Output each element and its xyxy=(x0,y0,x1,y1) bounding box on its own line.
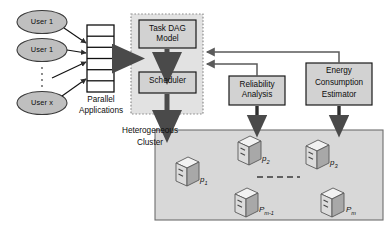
user-ellipse-1 xyxy=(17,11,67,34)
scheduler-box xyxy=(139,72,196,93)
node-pm-1 xyxy=(235,188,258,217)
parallel-applications-queue xyxy=(87,25,114,92)
diagram-vector-layer xyxy=(0,0,390,238)
node-pm xyxy=(321,188,344,217)
user-ellipse-2 xyxy=(17,39,67,62)
task-dag-model-box xyxy=(139,20,196,48)
user-ellipsis-dots xyxy=(41,67,43,87)
reliability-to-framework-feedback-arrow xyxy=(207,64,257,76)
energy-consumption-estimator-box xyxy=(306,63,372,105)
energy-to-dag-feedback-arrow xyxy=(207,52,339,63)
node-p1 xyxy=(176,157,199,186)
user-ellipse-group xyxy=(17,11,67,115)
node-p3 xyxy=(306,140,329,169)
user-ellipse-x xyxy=(17,92,67,115)
diagram-canvas: User 1 User 1 User x Parallel Applicatio… xyxy=(0,0,390,238)
reliability-analysis-box xyxy=(229,76,285,105)
node-p2 xyxy=(238,136,261,165)
user-to-queue-connectors xyxy=(52,28,86,96)
